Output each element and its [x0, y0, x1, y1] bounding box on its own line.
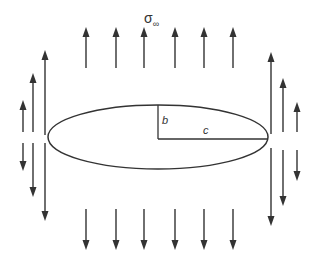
- arrow-up-icon: [141, 27, 148, 68]
- arrow-up-icon: [83, 27, 90, 68]
- arrow-up-icon: [268, 52, 275, 134]
- arrow-down-icon: [230, 209, 237, 250]
- stress-diagram: σ∞ b c: [0, 0, 321, 272]
- arrow-up-icon: [42, 50, 49, 135]
- arrow-up-icon: [280, 78, 287, 132]
- arrow-up-icon: [20, 100, 27, 132]
- arrow-down-icon: [294, 150, 301, 181]
- arrow-up-icon: [30, 73, 37, 132]
- sigma-symbol: σ: [144, 10, 153, 26]
- arrow-down-icon: [20, 143, 27, 171]
- arrow-up-icon: [201, 27, 208, 68]
- arrow-down-icon: [172, 209, 179, 250]
- arrow-down-icon: [113, 209, 120, 250]
- arrow-up-icon: [113, 27, 120, 68]
- arrow-down-icon: [42, 143, 49, 221]
- arrow-down-icon: [268, 148, 275, 226]
- far-field-stress-label: σ∞: [144, 10, 159, 29]
- ellipse-crack-figure: [0, 0, 321, 272]
- label-c: c: [203, 124, 209, 136]
- arrow-up-icon: [172, 27, 179, 68]
- infinity-subscript: ∞: [153, 19, 159, 29]
- arrow-down-icon: [30, 143, 37, 197]
- arrow-up-icon: [294, 102, 301, 132]
- arrow-down-icon: [83, 209, 90, 250]
- arrow-down-icon: [141, 209, 148, 250]
- arrow-down-icon: [280, 150, 287, 206]
- arrow-down-icon: [201, 209, 208, 250]
- arrow-up-icon: [230, 27, 237, 68]
- label-b: b: [162, 114, 168, 126]
